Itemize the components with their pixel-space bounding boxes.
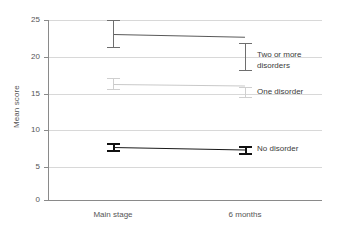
y-tickmark-25 [44, 20, 48, 21]
y-tickmark-0 [44, 200, 48, 201]
y-tick-label-10: 10 [14, 125, 40, 134]
errorbar-cap-top-one-disorder-6-months [239, 87, 252, 88]
errorbar-cap-top-two-or-more-disorders-main-stage [107, 20, 120, 21]
x-axis-line [48, 200, 322, 201]
errorbar-cap-bottom-no-disorder-main-stage [107, 150, 120, 152]
y-tickmark-10 [44, 130, 48, 131]
errorbar-one-disorder-6-months [245, 87, 246, 97]
y-tick-label-15: 15 [14, 89, 40, 98]
errorbar-cap-bottom-one-disorder-6-months [239, 97, 252, 98]
gridline-25 [48, 20, 322, 21]
series-line-no-disorder [113, 147, 245, 151]
y-tick-label-5: 5 [14, 162, 40, 171]
legend-label-no-disorder-line1: No disorder [257, 144, 298, 153]
series-line-one-disorder [113, 84, 245, 87]
errorbar-one-disorder-main-stage [113, 78, 114, 89]
gridline-5 [48, 167, 322, 168]
x-tick-label-main-stage: Main stage [73, 210, 153, 219]
series-line-two-or-more-disorders [113, 34, 245, 38]
errorbar-cap-top-one-disorder-main-stage [107, 78, 120, 79]
y-tickmark-15 [44, 94, 48, 95]
legend-label-two-or-more-disorders-line2: disorders [257, 61, 290, 70]
errorbar-two-or-more-disorders-6-months [245, 43, 246, 70]
errorbar-cap-bottom-one-disorder-main-stage [107, 89, 120, 90]
y-tick-label-0: 0 [14, 195, 40, 204]
legend-label-two-or-more-disorders-line1: Two or more [257, 50, 301, 59]
y-tick-label-20: 20 [14, 52, 40, 61]
errorbar-cap-bottom-two-or-more-disorders-6-months [239, 70, 252, 71]
legend-label-two-or-more-disorders: Two or more disorders [257, 50, 301, 71]
y-tickmark-5 [44, 167, 48, 168]
errorbar-cap-bottom-no-disorder-6-months [239, 153, 252, 155]
legend-label-one-disorder: One disorder [257, 87, 303, 98]
gridline-10 [48, 130, 322, 131]
errorbar-cap-top-no-disorder-main-stage [107, 143, 120, 145]
errorbar-cap-bottom-two-or-more-disorders-main-stage [107, 47, 120, 48]
line-chart: Mean score 25 20 15 10 5 0 Main stage 6 … [0, 0, 342, 230]
legend-label-one-disorder-line1: One disorder [257, 87, 303, 96]
y-tick-label-25: 25 [14, 15, 40, 24]
errorbar-cap-top-no-disorder-6-months [239, 146, 252, 148]
legend-label-no-disorder: No disorder [257, 144, 298, 155]
x-tick-label-6-months: 6 months [205, 210, 285, 219]
errorbar-cap-top-two-or-more-disorders-6-months [239, 43, 252, 44]
y-axis-line [48, 20, 49, 201]
errorbar-two-or-more-disorders-main-stage [113, 20, 114, 47]
y-tickmark-20 [44, 57, 48, 58]
